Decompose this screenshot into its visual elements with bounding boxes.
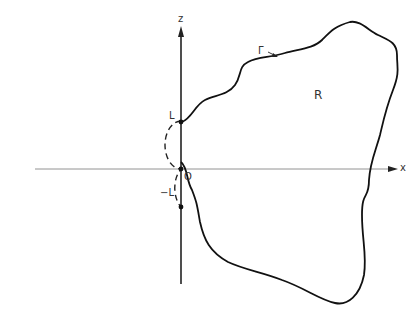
diagram-svg [0,0,414,313]
point-lower-L [179,205,184,210]
lower-point-label: −L [160,188,174,198]
origin-label: O [184,172,192,182]
boundary-curve [181,22,398,304]
boundary-label: Γ [258,46,264,56]
x-axis-label: x [400,163,406,173]
x-axis-arrow-icon [388,166,398,172]
point-origin [179,167,184,172]
region-label: R [314,89,322,101]
z-axis-label: z [178,14,183,24]
point-upper-L [179,120,184,125]
z-axis-arrow-icon [178,26,184,37]
upper-point-label: L [169,111,175,121]
diagram-canvas: z x O L −L R Γ [0,0,414,313]
